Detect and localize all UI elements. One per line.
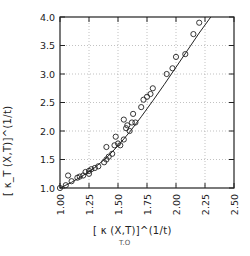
x-tick-label: 1.75 [142,194,153,215]
data-point [121,117,126,122]
data-point [139,105,144,110]
x-tick-label: 2.00 [171,194,182,215]
x-tick-label: 2.50 [229,194,240,215]
data-point [113,134,118,139]
data-point [191,31,196,36]
y-tick-label: 3.5 [40,40,55,51]
data-point [197,20,202,25]
x-tick-label: 1.00 [55,194,66,215]
data-point [148,91,153,96]
data-point [170,66,175,71]
y-axis-label: [ κ_T (X,T)]^(1/t) [2,46,16,196]
scatter-chart: 1.01.52.02.53.03.54.0 1.001.251.501.752.… [0,0,250,256]
x-tick-labels: 1.001.251.501.752.002.252.50 [55,194,240,215]
x-tick-label: 1.50 [113,194,124,215]
y-tick-label: 3.0 [40,69,55,80]
data-point [131,111,136,116]
x-axis-label: [ κ (X,T)]^(1/t) [93,225,172,236]
y-tick-label: 1.5 [40,154,55,165]
grid-lines [60,17,234,188]
x-tick-label: 2.25 [200,194,211,215]
y-tick-label: 2.5 [40,97,55,108]
y-tick-labels: 1.01.52.02.53.03.54.0 [40,12,55,194]
y-tick-label: 4.0 [40,12,55,23]
data-point [150,86,155,91]
data-point [66,173,71,178]
data-point [104,144,109,149]
x-tick-label: 1.25 [84,194,95,215]
y-tick-label: 1.0 [40,183,55,194]
x-axis-label-subscript: T.O [119,239,130,247]
data-point [141,97,146,102]
y-tick-label: 2.0 [40,126,55,137]
